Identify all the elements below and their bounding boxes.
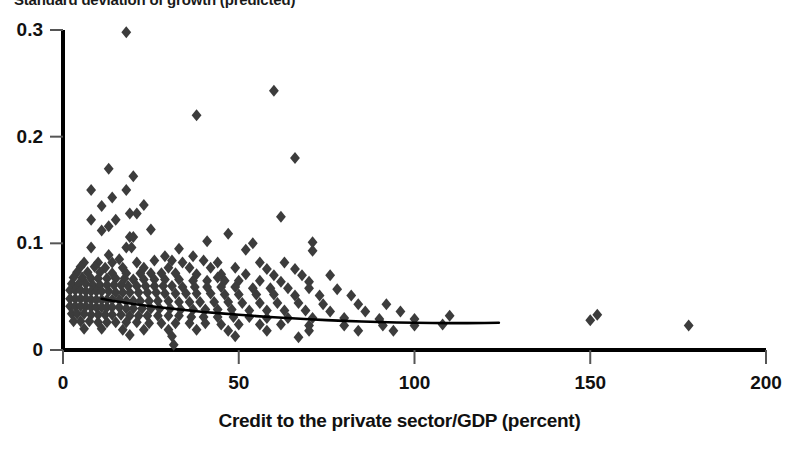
scatter-point	[353, 298, 363, 310]
scatter-point	[388, 325, 398, 337]
x-tick-label: 200	[750, 372, 782, 394]
x-tick-label: 50	[228, 372, 249, 394]
x-tick-label: 0	[58, 372, 69, 394]
scatter-point	[381, 298, 391, 310]
x-tick-label: 150	[574, 372, 606, 394]
scatter-point	[297, 269, 307, 281]
scatter-point	[294, 331, 304, 343]
scatter-point	[283, 282, 293, 294]
scatter-point	[396, 306, 406, 318]
scatter-point	[97, 200, 107, 212]
scatter-point	[262, 263, 272, 275]
scatter-point	[192, 324, 202, 336]
scatter-point	[111, 214, 121, 226]
scatter-point	[269, 85, 279, 97]
scatter-point	[255, 318, 265, 330]
scatter-point	[276, 211, 286, 223]
scatter-point	[353, 325, 363, 337]
scatter-point	[410, 319, 420, 331]
scatter-point	[255, 275, 265, 287]
scatter-point	[139, 199, 149, 211]
scatter-point	[269, 269, 279, 281]
scatter-point	[290, 263, 300, 275]
scatter-point	[262, 325, 272, 337]
scatter-point	[308, 245, 318, 257]
scatter-point	[241, 268, 251, 280]
scatter-point	[104, 163, 114, 175]
scatter-point	[86, 184, 96, 196]
scatter-point-group	[65, 26, 693, 351]
scatter-point	[132, 207, 142, 219]
scatter-point	[301, 305, 311, 317]
scatter-point	[188, 250, 198, 262]
scatter-point	[290, 152, 300, 164]
y-tick-label: 0	[0, 339, 43, 361]
scatter-point	[360, 306, 370, 318]
scatter-point	[325, 269, 335, 281]
scatter-point	[276, 318, 286, 330]
scatter-point	[346, 290, 356, 302]
scatter-point	[202, 235, 212, 247]
y-tick-label: 0.3	[0, 19, 43, 41]
scatter-point	[438, 318, 448, 330]
scatter-point	[332, 283, 342, 295]
scatter-point	[325, 306, 335, 318]
scatter-point	[223, 228, 233, 240]
scatter-point	[128, 170, 138, 182]
scatter-point	[149, 254, 159, 266]
scatter-point	[107, 191, 117, 203]
scatter-point	[121, 184, 131, 196]
y-tick-label: 0.1	[0, 232, 43, 254]
scatter-point	[174, 243, 184, 255]
scatter-point	[127, 242, 137, 254]
chart-figure: Standard deviation of growth (predicted)…	[0, 0, 799, 449]
scatter-point	[86, 242, 96, 254]
scatter-point	[199, 254, 209, 266]
x-tick-label: 100	[399, 372, 431, 394]
scatter-point	[445, 310, 455, 322]
scatter-point	[241, 244, 251, 256]
scatter-point	[230, 262, 240, 274]
x-axis-ticks	[63, 350, 766, 364]
scatter-point	[684, 319, 694, 331]
scatter-point	[304, 282, 314, 294]
y-tick-label: 0.2	[0, 126, 43, 148]
scatter-point	[86, 214, 96, 226]
scatter-point	[276, 276, 286, 288]
scatter-point	[248, 237, 258, 249]
scatter-point	[280, 257, 290, 269]
scatter-point	[255, 257, 265, 269]
scatter-point	[121, 26, 131, 38]
scatter-point	[146, 223, 156, 235]
scatter-point	[192, 109, 202, 121]
x-axis-label: Credit to the private sector/GDP (percen…	[0, 410, 799, 432]
